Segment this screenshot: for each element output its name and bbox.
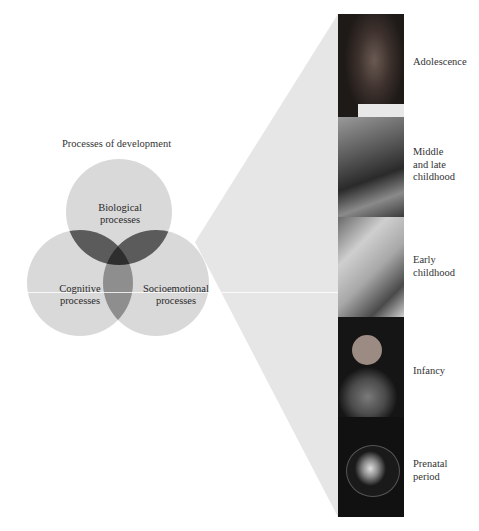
diagram-title: Processes of development [62,138,171,149]
label-socioemotional: Socioemotional processes [136,283,216,307]
label-prenatal: Prenatal period [413,458,447,483]
label-middle-late-childhood: Middle and late childhood [413,146,455,184]
photo-early-childhood [338,217,404,317]
label-cognitive: Cognitive processes [55,283,105,307]
photo-prenatal [338,417,404,517]
photo-infancy [338,317,404,417]
photo-adolescence [338,14,404,117]
label-infancy: Infancy [413,365,445,378]
photo-middle-late-childhood [338,117,404,217]
label-early-childhood: Early childhood [413,254,455,279]
venn-diagram [0,0,330,531]
label-biological: Biological processes [95,202,145,226]
label-adolescence: Adolescence [413,56,467,69]
